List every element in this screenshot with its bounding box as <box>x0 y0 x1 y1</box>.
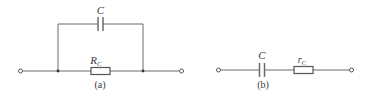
circuit-diagram: C RC (a) C rC (b) <box>0 0 369 99</box>
terminal-a-right <box>180 69 184 73</box>
caption-b: (b) <box>257 79 269 91</box>
circuit-b <box>217 63 354 77</box>
resistor-a-label: RC <box>89 54 102 68</box>
junction-a-left <box>57 70 60 73</box>
caption-a: (a) <box>94 79 105 91</box>
resistor-a <box>91 68 110 75</box>
resistor-b-label: rC <box>298 54 307 67</box>
capacitor-b-label: C <box>258 49 266 61</box>
terminal-b-left <box>217 68 221 72</box>
junction-a-right <box>142 70 145 73</box>
terminal-b-right <box>350 68 354 72</box>
resistor-b <box>294 67 313 74</box>
terminal-a-left <box>19 69 23 73</box>
capacitor-a-label: C <box>97 4 105 16</box>
